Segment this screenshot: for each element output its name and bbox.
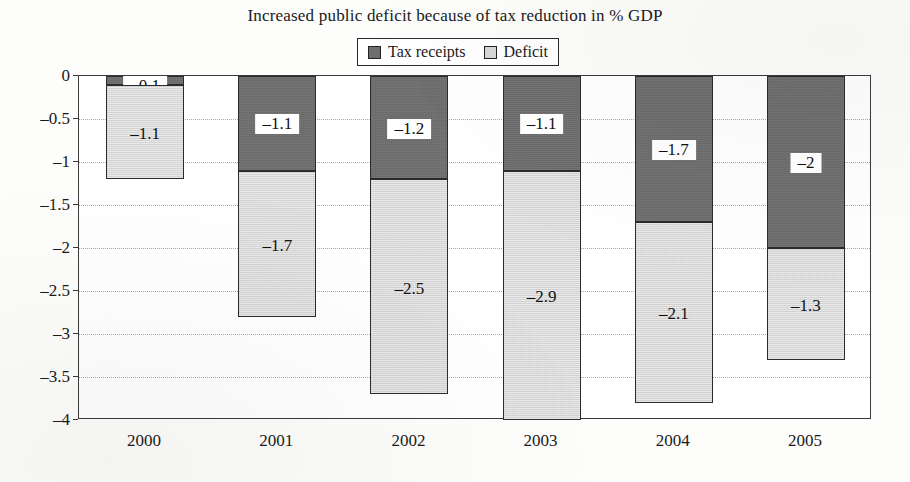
x-axis-tick-label: 2001 xyxy=(216,432,336,449)
x-axis-tick-label: 2005 xyxy=(745,432,865,449)
y-axis-tick-mark xyxy=(73,161,78,162)
bar-segment-tax-receipts[interactable]: –1.2 xyxy=(370,76,448,179)
x-axis-tick-label: 2003 xyxy=(481,432,601,449)
bar-value-label: –1.1 xyxy=(520,114,564,134)
x-axis-tick-label: 2004 xyxy=(613,432,733,449)
y-axis-tick-mark xyxy=(73,419,78,420)
bar-group[interactable]: –1.7–2.1 xyxy=(635,76,713,420)
bar-group[interactable]: –0.1–1.1 xyxy=(106,76,184,420)
gridline xyxy=(79,205,870,206)
plot-area: –0.1–1.1–1.1–1.7–1.2–2.5–1.1–2.9–1.7–2.1… xyxy=(78,75,871,419)
bar-group[interactable]: –1.1–1.7 xyxy=(238,76,316,420)
y-axis-tick-mark xyxy=(73,75,78,76)
bar-group[interactable]: –1.1–2.9 xyxy=(503,76,581,420)
y-axis-tick-label: –1.5 xyxy=(10,196,70,213)
y-axis-tick-mark xyxy=(73,333,78,334)
y-axis-tick-mark xyxy=(73,204,78,205)
y-axis-tick-label: –4 xyxy=(10,411,70,428)
x-axis-tick-label: 2000 xyxy=(84,432,204,449)
legend-label-deficit: Deficit xyxy=(504,44,548,60)
bar-segment-tax-receipts[interactable]: –1.1 xyxy=(238,76,316,171)
y-axis-tick-label: –2.5 xyxy=(10,282,70,299)
bar-segment-deficit[interactable]: –1.1 xyxy=(106,85,184,180)
y-axis-tick-label: –0.5 xyxy=(10,110,70,127)
light-gray-swatch-icon xyxy=(484,46,497,59)
gridline xyxy=(79,162,870,163)
bar-segment-tax-receipts[interactable]: –0.1 xyxy=(106,76,184,85)
bar-value-label: –1.3 xyxy=(791,296,821,313)
bar-segment-deficit[interactable]: –1.7 xyxy=(238,171,316,317)
y-axis-tick-mark xyxy=(73,290,78,291)
bar-value-label: –1.1 xyxy=(130,124,160,141)
y-axis-tick-label: –3 xyxy=(10,325,70,342)
legend-label-tax-receipts: Tax receipts xyxy=(388,44,466,60)
legend-item-tax-receipts[interactable]: Tax receipts xyxy=(368,44,466,60)
chart-title: Increased public deficit because of tax … xyxy=(0,6,910,26)
bar-value-label: –1.7 xyxy=(262,236,292,253)
bar-value-label: –2.1 xyxy=(659,305,689,322)
y-axis-tick-mark xyxy=(73,247,78,248)
legend-item-deficit[interactable]: Deficit xyxy=(484,44,548,60)
bar-segment-deficit[interactable]: –2.1 xyxy=(635,222,713,403)
dark-gray-swatch-icon xyxy=(368,46,381,59)
chart-legend: Tax receipts Deficit xyxy=(357,38,559,66)
bar-group[interactable]: –1.2–2.5 xyxy=(370,76,448,420)
y-axis-tick-label: –2 xyxy=(10,239,70,256)
bar-segment-deficit[interactable]: –2.5 xyxy=(370,179,448,394)
gridline xyxy=(79,334,870,335)
bar-group[interactable]: –2–1.3 xyxy=(767,76,845,420)
x-axis-tick-label: 2002 xyxy=(348,432,468,449)
y-axis-tick-mark xyxy=(73,376,78,377)
bar-value-label: –1.7 xyxy=(652,140,696,160)
chart-figure: Increased public deficit because of tax … xyxy=(0,0,910,482)
bar-value-label: –2 xyxy=(790,153,821,173)
gridline xyxy=(79,291,870,292)
bar-value-label: –1.1 xyxy=(255,114,299,134)
bar-value-label: –1.2 xyxy=(388,119,432,139)
bar-value-label: –2.5 xyxy=(395,279,425,296)
bar-segment-deficit[interactable]: –1.3 xyxy=(767,248,845,360)
y-axis-tick-label: –1 xyxy=(10,153,70,170)
bar-segment-tax-receipts[interactable]: –2 xyxy=(767,76,845,248)
gridline xyxy=(79,119,870,120)
bar-segment-tax-receipts[interactable]: –1.7 xyxy=(635,76,713,222)
y-axis-tick-label: –3.5 xyxy=(10,368,70,385)
y-axis-tick-label: 0 xyxy=(10,67,70,84)
y-axis-tick-mark xyxy=(73,118,78,119)
bar-value-label: –2.9 xyxy=(527,288,557,305)
bar-segment-deficit[interactable]: –2.9 xyxy=(503,171,581,420)
gridline xyxy=(79,377,870,378)
gridline xyxy=(79,248,870,249)
bar-segment-tax-receipts[interactable]: –1.1 xyxy=(503,76,581,171)
